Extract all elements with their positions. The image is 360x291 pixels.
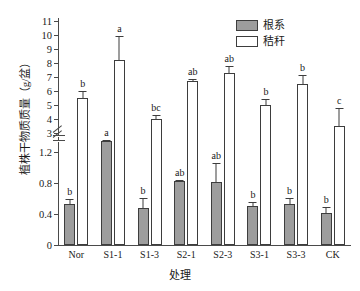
significance-letter: a: [117, 23, 121, 34]
bar-group: abab: [171, 18, 201, 245]
error-cap-bottom: [262, 105, 270, 106]
significance-letter: b: [324, 194, 329, 205]
y-tick-label: 5: [47, 100, 52, 111]
legend-swatch-root-icon: [236, 20, 258, 31]
significance-letter: b: [67, 186, 72, 197]
error-cap-top: [152, 115, 160, 116]
bar-straw: bc: [151, 119, 162, 245]
significance-letter: b: [141, 185, 146, 196]
error-cap-bottom: [176, 181, 184, 182]
x-category-label: CK: [326, 249, 340, 260]
error-bar: [302, 75, 303, 86]
error-bar: [265, 99, 266, 106]
y-tick-label: 6: [47, 86, 52, 97]
x-axis-line: [58, 245, 351, 246]
bar-root: a: [101, 141, 112, 245]
significance-letter: b: [80, 78, 85, 89]
y-tick-label: 0.8: [39, 178, 52, 189]
error-cap-bottom: [335, 126, 343, 127]
y-tick: [54, 214, 58, 215]
bar-group: aa: [98, 18, 128, 245]
y-tick: [54, 63, 58, 64]
legend-item-straw: 秸秆: [236, 35, 285, 48]
y-tick-label: 0: [47, 240, 52, 251]
error-cap-bottom: [79, 98, 87, 99]
y-tick: [54, 21, 58, 22]
error-bar: [119, 36, 120, 61]
error-bar: [106, 140, 107, 142]
bar-straw: c: [334, 126, 345, 245]
significance-letter: b: [250, 189, 255, 200]
error-bar: [192, 79, 193, 82]
y-tick-label: 7: [47, 72, 52, 83]
bar-straw: a: [114, 60, 125, 245]
y-tick: [54, 183, 58, 184]
error-bar: [216, 163, 217, 182]
bar-straw: b: [260, 105, 271, 245]
y-tick-label: 4: [47, 114, 52, 125]
error-cap-top: [262, 99, 270, 100]
error-cap-top: [335, 108, 343, 109]
error-bar: [69, 199, 70, 205]
error-cap-bottom: [189, 81, 197, 82]
bar-straw: b: [297, 84, 308, 245]
y-tick: [54, 245, 58, 246]
y-tick: [54, 77, 58, 78]
error-bar: [326, 207, 327, 214]
y-tick: [54, 152, 58, 153]
bar-straw: b: [77, 98, 88, 245]
error-cap-bottom: [152, 119, 160, 120]
error-bar: [229, 66, 230, 74]
error-cap-bottom: [212, 182, 220, 183]
bar-group: bbc: [135, 18, 165, 245]
significance-letter: b: [287, 185, 292, 196]
error-cap-top: [139, 198, 147, 199]
error-cap-top: [66, 199, 74, 200]
bar-group: abab: [208, 18, 238, 245]
error-bar: [179, 180, 180, 182]
y-tick-label: 11: [42, 16, 52, 27]
y-tick-label: 0.4: [39, 209, 52, 220]
y-axis-title: 植株干物质质量（g/盆）: [16, 16, 32, 216]
significance-letter: b: [263, 86, 268, 97]
error-bar: [143, 198, 144, 209]
y-tick: [54, 105, 58, 106]
y-tick-label: 3: [47, 128, 52, 139]
dry-matter-bar-chart: 植株干物质质量（g/盆） 处理 00.40.81.234567891011 bb…: [0, 0, 360, 291]
significance-letter: b: [300, 62, 305, 73]
y-tick-label: 8: [47, 58, 52, 69]
y-tick: [54, 49, 58, 50]
error-cap-bottom: [102, 141, 110, 142]
error-cap-top: [322, 207, 330, 208]
significance-letter: ab: [212, 150, 221, 161]
y-tick-label: 9: [47, 44, 52, 55]
bar-root: b: [64, 204, 75, 245]
x-category-label: S1-3: [140, 249, 159, 260]
bar-root: ab: [174, 181, 185, 245]
y-tick: [54, 119, 58, 120]
error-cap-bottom: [225, 73, 233, 74]
error-bar: [289, 198, 290, 205]
bar-group: bb: [61, 18, 91, 245]
error-cap-bottom: [286, 204, 294, 205]
error-cap-top: [225, 66, 233, 67]
error-bar: [156, 115, 157, 120]
bar-root: ab: [211, 182, 222, 245]
y-tick: [54, 91, 58, 92]
legend-swatch-straw-icon: [236, 36, 258, 47]
bar-root: b: [138, 208, 149, 245]
error-cap-bottom: [139, 208, 147, 209]
error-cap-top: [212, 163, 220, 164]
bar-straw: ab: [224, 73, 235, 245]
error-cap-top: [79, 91, 87, 92]
bar-group: bb: [281, 18, 311, 245]
error-bar: [252, 202, 253, 207]
error-bar: [339, 108, 340, 127]
y-tick: [54, 35, 58, 36]
error-cap-bottom: [115, 60, 123, 61]
x-category-label: S2-1: [177, 249, 196, 260]
x-category-label: S2-3: [213, 249, 232, 260]
x-category-label: Nor: [69, 249, 85, 260]
y-tick-label: 1.2: [39, 147, 52, 158]
significance-letter: c: [337, 95, 341, 106]
